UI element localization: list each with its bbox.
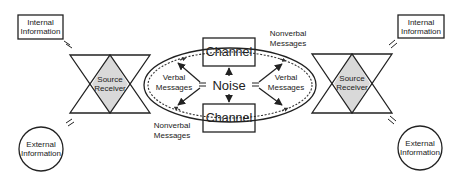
right-internal-line2: Information (401, 27, 441, 36)
nonverbal-top-line1: Nonverbal (270, 29, 307, 38)
left-internal-line1: Internal (27, 18, 54, 27)
channel-bottom-box: Channel (203, 104, 255, 132)
nonverbal-top-line2: Messages (270, 39, 306, 48)
communication-diagram: Internal Information Source Receiver Ext… (0, 0, 465, 178)
verbal-right-line1: Verbal (275, 73, 298, 82)
left-internal-information-box: Internal Information (18, 15, 63, 39)
right-external-line2: Information (400, 148, 440, 157)
verbal-left-line2: Messages (156, 83, 192, 92)
right-external-link-icon (388, 116, 396, 124)
right-source-label: Source (339, 74, 365, 83)
nonverbal-messages-bottom-left: Nonverbal Messages (154, 121, 191, 140)
left-external-link-icon (66, 119, 74, 126)
right-receiver-label: Receiver (336, 83, 368, 92)
left-source-receiver-hourglass: Source Receiver (70, 55, 150, 113)
right-internal-information-box: Internal Information (398, 15, 444, 38)
left-internal-line2: Information (20, 27, 60, 36)
nonverbal-bottom-line2: Messages (154, 131, 190, 140)
right-external-line1: External (405, 139, 435, 148)
channel-top-box: Channel (203, 38, 255, 66)
left-external-line2: Information (21, 149, 61, 158)
left-internal-link-icon (64, 41, 72, 48)
noise-right-break-icon (252, 83, 259, 86)
noise-node: Noise (199, 77, 259, 93)
verbal-messages-right: Verbal Messages (268, 73, 304, 92)
right-source-receiver-hourglass: Source Receiver (312, 54, 392, 113)
left-external-information-circle: External Information (19, 127, 63, 171)
noise-label: Noise (212, 78, 245, 93)
left-external-line1: External (26, 140, 56, 149)
noise-left-break-icon (199, 83, 206, 86)
nonverbal-messages-top-right: Nonverbal Messages (270, 29, 307, 48)
verbal-messages-left: Verbal Messages (156, 73, 192, 92)
verbal-left-line1: Verbal (163, 73, 186, 82)
channel-bottom-label: Channel (206, 111, 253, 125)
verbal-right-line2: Messages (268, 83, 304, 92)
right-internal-link-icon (389, 40, 397, 48)
channel-top-label: Channel (206, 45, 253, 59)
nonverbal-bottom-line1: Nonverbal (154, 121, 191, 130)
left-receiver-label: Receiver (94, 84, 126, 93)
right-external-information-circle: External Information (398, 126, 442, 170)
right-internal-line1: Internal (408, 18, 435, 27)
left-source-label: Source (97, 75, 123, 84)
